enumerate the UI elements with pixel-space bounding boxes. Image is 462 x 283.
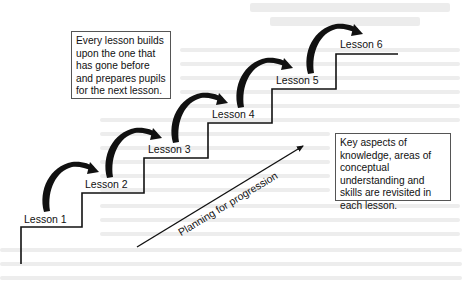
builds-upon-note: Every lesson builds upon the one that ha… [71, 31, 171, 99]
lesson-label-6: Lesson 6 [340, 38, 383, 50]
lesson-label-3: Lesson 3 [148, 143, 191, 155]
lesson-label-1: Lesson 1 [24, 213, 67, 225]
lesson-label-2: Lesson 2 [85, 178, 128, 190]
lesson-label-4: Lesson 4 [212, 108, 255, 120]
progression-arrow [137, 146, 303, 247]
lesson-label-5: Lesson 5 [276, 74, 319, 86]
revisited-note: Key aspects of knowledge, areas of conce… [335, 133, 451, 201]
